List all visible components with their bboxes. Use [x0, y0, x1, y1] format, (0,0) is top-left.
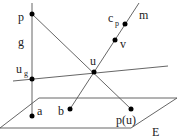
- label-e: E: [152, 125, 159, 139]
- label-pu: p(u): [116, 113, 136, 127]
- label-cp: c: [108, 11, 113, 25]
- label-ug: u: [16, 62, 22, 76]
- label-cp-sub: p: [115, 19, 119, 28]
- label-ug-sub: g: [24, 69, 28, 78]
- line-ug-u: [13, 66, 168, 81]
- label-g: g: [18, 35, 24, 49]
- label-b: b: [58, 104, 64, 118]
- point-pu: [129, 107, 134, 112]
- point-v: [113, 38, 118, 43]
- point-u: [92, 70, 97, 75]
- label-p: p: [18, 10, 24, 24]
- point-ug: [30, 77, 35, 82]
- point-cp: [123, 22, 128, 27]
- point-b: [68, 107, 73, 112]
- label-m: m: [139, 8, 149, 22]
- plane-e: [0, 98, 177, 128]
- label-u: u: [90, 54, 96, 68]
- line-p-pu: [32, 14, 131, 109]
- point-a: [30, 114, 35, 119]
- line-m: [70, 3, 139, 109]
- label-a: a: [37, 104, 43, 118]
- geometry-diagram: p g u g u c p m v a b p(u) E: [0, 0, 182, 139]
- label-v: v: [120, 37, 126, 51]
- point-p: [30, 12, 35, 17]
